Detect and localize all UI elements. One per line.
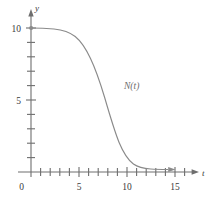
- curve-annotation-label: N(t): [123, 81, 139, 92]
- x-tick-label-5: 5: [77, 182, 82, 192]
- x-tick-label-10: 10: [122, 182, 132, 192]
- x-tick-label-0: 0: [19, 182, 24, 192]
- logistic-decay-plot: 10 5 0 5 10 15 y t N(t): [0, 0, 210, 201]
- curve-group: [29, 26, 175, 172]
- y-tick-label-5: 5: [16, 96, 21, 106]
- x-axis-arrowhead: [192, 169, 199, 174]
- curve-start-point: [29, 26, 33, 30]
- y-axis-arrowhead: [28, 9, 33, 16]
- curve-N-of-t: [31, 28, 168, 170]
- y-axis-label: y: [34, 3, 39, 13]
- x-axis-label: t: [202, 168, 205, 178]
- curve-end-arrowhead: [168, 167, 175, 172]
- x-tick-label-15: 15: [170, 182, 180, 192]
- axes-group: [18, 9, 199, 177]
- y-tick-label-10: 10: [12, 24, 22, 34]
- chart-figure: 10 5 0 5 10 15 y t N(t): [0, 0, 210, 201]
